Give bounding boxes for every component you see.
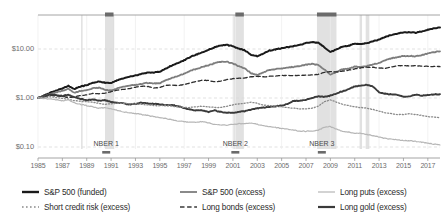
recession-label-nber-3: NBER 3 bbox=[302, 140, 342, 147]
y-axis-tick-label: $1.00 bbox=[0, 93, 34, 102]
legend-item[interactable]: Long gold (excess) bbox=[318, 202, 406, 212]
recession-band-2 bbox=[235, 15, 244, 149]
recession-marker-3 bbox=[317, 13, 336, 17]
y-axis-tick-label: $10.00 bbox=[0, 44, 34, 53]
legend-item[interactable]: Short credit risk (excess) bbox=[22, 202, 130, 212]
legend-swatch-icon bbox=[318, 202, 335, 212]
legend-item-label: S&P 500 (funded) bbox=[44, 188, 107, 197]
legend-item-label: Long puts (excess) bbox=[340, 188, 406, 197]
recession-marker-2 bbox=[235, 13, 244, 17]
plot-area: $10.00$1.00$0.10 19851987198919911993199… bbox=[0, 0, 447, 175]
recession-label-nber-2: NBER 2 bbox=[215, 140, 255, 147]
y-axis-tick-label: $0.10 bbox=[0, 142, 34, 151]
nber-baseline-marker-1 bbox=[102, 151, 110, 154]
legend-swatch-icon bbox=[318, 187, 335, 197]
legend-item[interactable]: Long bonds (excess) bbox=[180, 202, 275, 212]
legend-item[interactable]: Long puts (excess) bbox=[318, 187, 406, 197]
legend-item[interactable]: S&P 500 (funded) bbox=[22, 187, 107, 197]
chart-canvas bbox=[0, 0, 447, 175]
chart-figure: $10.00$1.00$0.10 19851987198919911993199… bbox=[0, 0, 447, 222]
legend-swatch-icon bbox=[180, 202, 197, 212]
legend-swatch-icon bbox=[22, 187, 39, 197]
legend-item-label: S&P 500 (excess) bbox=[202, 188, 265, 197]
recession-marker-1 bbox=[105, 13, 114, 17]
legend-item[interactable]: S&P 500 (excess) bbox=[180, 187, 265, 197]
recession-label-nber-1: NBER 1 bbox=[86, 140, 126, 147]
legend-swatch-icon bbox=[22, 202, 39, 212]
nber-baseline-marker-3 bbox=[318, 151, 326, 154]
legend-item-label: Long gold (excess) bbox=[340, 203, 406, 212]
recession-band-5 bbox=[366, 15, 370, 149]
legend-item-label: Long bonds (excess) bbox=[202, 203, 275, 212]
x-axis-tick-label: 2017 bbox=[413, 162, 443, 169]
legend-swatch-icon bbox=[180, 187, 197, 197]
nber-baseline-marker-2 bbox=[231, 151, 239, 154]
chart-legend: S&P 500 (funded)Short credit risk (exces… bbox=[0, 183, 447, 222]
recession-band-4 bbox=[360, 15, 362, 149]
legend-item-label: Short credit risk (excess) bbox=[44, 203, 130, 212]
